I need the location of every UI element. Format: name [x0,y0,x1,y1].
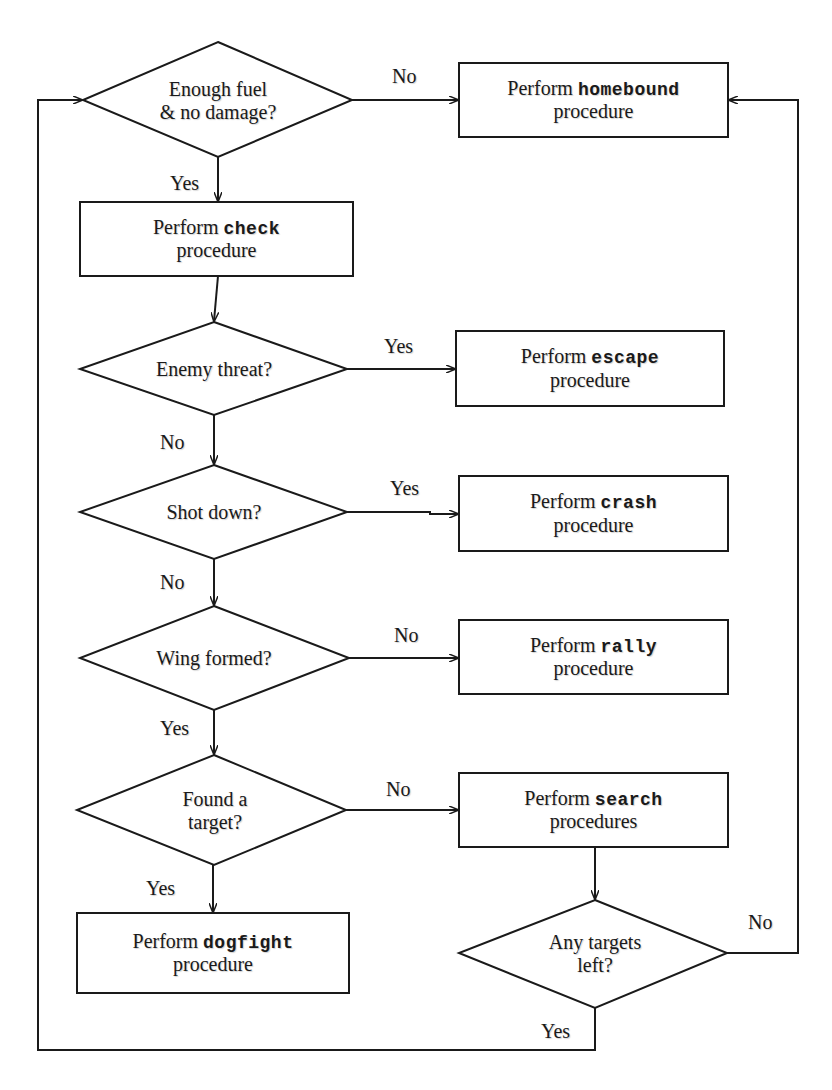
decision-wing-line1: Wing formed? [156,647,271,670]
process-check-suffix: procedure [177,239,257,262]
edge-label-wing-yes: Yes [160,717,189,740]
edge-shot-crash [347,512,458,514]
process-crash: Perform crash procedure [459,476,728,551]
edge-label-wing-no: No [394,624,418,647]
decision-fuel-line2: & no damage? [160,101,277,124]
process-check-keyword: check [224,219,281,239]
edge-any-homebound [727,100,798,953]
edge-label-found-no: No [386,778,410,801]
process-search-keyword: search [595,790,663,810]
process-dogfight: Perform dogfight procedure [77,913,349,993]
decision-enemy-line1: Enemy threat? [156,358,272,381]
process-homebound: Perform homebound procedure [459,63,728,137]
process-escape-suffix: procedure [550,369,630,392]
decision-any-line2: left? [577,954,613,977]
process-rally-keyword: rally [601,637,658,657]
edge-label-fuel-yes: Yes [170,172,199,195]
process-escape-prefix: Perform [521,345,587,367]
process-rally-prefix: Perform [530,634,596,656]
process-dogfight-keyword: dogfight [203,933,293,953]
decision-enemy: Enemy threat? [100,352,328,386]
decision-shot-line1: Shot down? [167,501,262,524]
decision-found-line2: target? [188,811,242,834]
process-check: Perform check procedure [80,202,353,276]
process-rally-suffix: procedure [554,657,634,680]
process-dogfight-suffix: procedure [173,953,253,976]
decision-any: Any targets left? [500,925,690,983]
edge-label-any-yes: Yes [541,1020,570,1043]
process-homebound-prefix: Perform [507,77,573,99]
decision-found: Found a target? [120,782,310,840]
decision-wing: Wing formed? [100,641,328,675]
edge-label-enemy-yes: Yes [384,335,413,358]
process-search-prefix: Perform [524,787,590,809]
edge-check-enemy [214,276,218,321]
process-escape: Perform escape procedure [456,331,724,406]
process-check-prefix: Perform [153,216,219,238]
process-crash-suffix: procedure [554,514,634,537]
edge-label-fuel-no: No [392,65,416,88]
edge-label-found-yes: Yes [146,877,175,900]
edge-label-any-no: No [748,911,772,934]
decision-fuel: Enough fuel & no damage? [123,72,313,130]
process-search-suffix: procedures [550,810,638,833]
process-escape-keyword: escape [591,348,659,368]
process-homebound-suffix: procedure [554,100,634,123]
decision-found-line1: Found a [183,788,248,811]
process-homebound-keyword: homebound [578,80,680,100]
edge-label-enemy-no: No [160,431,184,454]
process-rally: Perform rally procedure [459,620,728,694]
decision-fuel-line1: Enough fuel [169,78,267,101]
decision-any-line1: Any targets [549,931,641,954]
process-crash-prefix: Perform [530,490,596,512]
edge-label-shot-yes: Yes [390,477,419,500]
process-crash-keyword: crash [601,493,658,513]
process-search: Perform search procedures [459,773,728,847]
process-dogfight-prefix: Perform [133,930,199,952]
edge-label-shot-no: No [160,571,184,594]
decision-shot: Shot down? [100,495,328,529]
